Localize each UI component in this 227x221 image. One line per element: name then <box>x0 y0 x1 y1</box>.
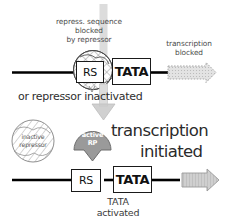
top-rs-box-label: RS <box>77 66 103 79</box>
polymerase-label-line-1: active <box>71 132 114 139</box>
bottom-tata-box: TATA <box>113 166 152 193</box>
top-tata-box: TATA <box>112 58 151 85</box>
repressor-caption-line-2: blocked <box>43 27 135 35</box>
transcription-blocked-caption-line-2: blocked <box>158 49 220 57</box>
inactive-repressor-label-line-2: repressor <box>11 142 55 149</box>
biology-diagram-figure: repress. sequence blocked by repressor t… <box>0 0 227 221</box>
top-tata-box-label: TATA <box>113 64 150 79</box>
repressor-caption-line-3: by repressor <box>43 36 135 44</box>
footer-line-2: activated <box>88 208 148 218</box>
inactive-repressor-label-line-1: inactive <box>11 134 55 141</box>
headline-line-2: initiated <box>140 143 203 160</box>
top-rs-box: RS <box>76 61 104 83</box>
polymerase-label-line-2: RP <box>71 140 114 147</box>
footer-line-1: TATA <box>88 197 148 207</box>
transcription-blocked-caption-line-1: transcription <box>158 40 220 48</box>
divider-text: or repressor inactivated <box>18 91 142 103</box>
headline-line-1: transcription <box>111 122 208 139</box>
bottom-rs-box-label: RS <box>72 174 100 187</box>
transcription-initiated-arrow <box>182 169 219 191</box>
transcription-blocked-arrow <box>168 63 216 83</box>
repressor-caption-line-1: repress. sequence <box>43 18 135 26</box>
bottom-rs-box: RS <box>71 169 101 192</box>
bottom-tata-box-label: TATA <box>114 172 151 187</box>
